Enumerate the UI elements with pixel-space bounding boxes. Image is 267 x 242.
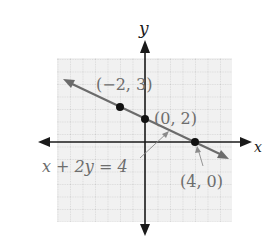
point-b-label: (0, 2) (154, 109, 197, 128)
point-b-marker (141, 115, 149, 123)
coordinate-graph: x y (−2, 3) (0, 2) (4, 0) x + 2y = 4 (0, 0, 267, 242)
y-axis-down-arrow-icon (140, 224, 150, 236)
point-a-label: (−2, 3) (96, 75, 152, 94)
x-axis-right-arrow-icon (240, 137, 252, 147)
x-axis-left-arrow-icon (38, 137, 50, 147)
point-c-label: (4, 0) (180, 172, 223, 191)
equation-label: x + 2y = 4 (42, 157, 128, 176)
point-c-marker (191, 138, 199, 146)
y-axis-up-arrow-icon (140, 40, 150, 53)
x-axis-label: x (254, 139, 262, 155)
y-axis-label: y (138, 18, 149, 38)
point-a-marker (116, 103, 124, 111)
